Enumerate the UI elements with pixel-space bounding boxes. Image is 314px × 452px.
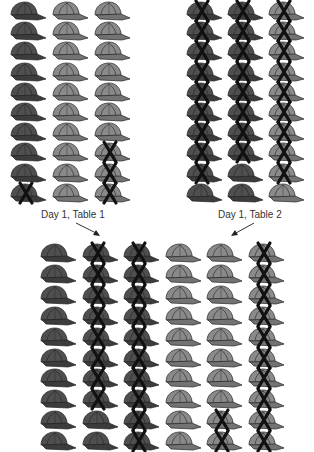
baseball-cap-icon-crossed <box>184 141 224 163</box>
baseball-cap-icon <box>163 347 203 369</box>
baseball-cap-icon-crossed <box>266 20 306 42</box>
baseball-cap-icon <box>204 347 244 369</box>
baseball-cap-icon-crossed <box>8 182 48 204</box>
baseball-cap-icon-crossed <box>266 81 306 103</box>
baseball-cap-icon <box>163 430 203 452</box>
baseball-cap-icon <box>163 367 203 389</box>
baseball-cap-icon-crossed <box>184 40 224 62</box>
baseball-cap-icon-crossed <box>266 121 306 143</box>
baseball-cap-icon <box>92 101 132 123</box>
baseball-cap-icon-crossed <box>121 284 161 306</box>
baseball-cap-icon-crossed <box>266 162 306 184</box>
baseball-cap-icon <box>92 20 132 42</box>
baseball-cap-icon <box>225 182 265 204</box>
baseball-cap-icon-crossed <box>121 305 161 327</box>
arrow-icon <box>228 220 258 240</box>
baseball-cap-icon-crossed <box>121 367 161 389</box>
baseball-cap-icon <box>204 242 244 264</box>
table1-hat-grid <box>8 0 143 205</box>
baseball-cap-icon <box>163 305 203 327</box>
baseball-cap-icon <box>204 284 244 306</box>
baseball-cap-icon-crossed <box>92 141 132 163</box>
baseball-cap-icon <box>50 0 90 22</box>
baseball-cap-icon <box>38 263 78 285</box>
baseball-cap-icon-crossed <box>184 0 224 22</box>
baseball-cap-icon <box>50 101 90 123</box>
baseball-cap-icon <box>163 284 203 306</box>
baseball-cap-icon-crossed <box>225 141 265 163</box>
baseball-cap-icon-crossed <box>204 409 244 431</box>
baseball-cap-icon <box>38 242 78 264</box>
baseball-cap-icon <box>38 326 78 348</box>
baseball-cap-icon-crossed <box>266 141 306 163</box>
baseball-cap-icon-crossed <box>266 61 306 83</box>
baseball-cap-icon <box>8 162 48 184</box>
baseball-cap-icon <box>50 182 90 204</box>
baseball-cap-icon <box>204 388 244 410</box>
table2-label: Day 1, Table 2 <box>218 209 282 220</box>
baseball-cap-icon <box>92 81 132 103</box>
baseball-cap-icon <box>163 388 203 410</box>
baseball-cap-icon-crossed <box>246 305 286 327</box>
table2-hat-grid <box>184 0 314 205</box>
baseball-cap-icon <box>8 40 48 62</box>
baseball-cap-icon <box>8 141 48 163</box>
baseball-cap-icon-crossed <box>225 81 265 103</box>
baseball-cap-icon-crossed <box>92 182 132 204</box>
baseball-cap-icon-crossed <box>184 61 224 83</box>
baseball-cap-icon <box>266 182 306 204</box>
baseball-cap-icon-crossed <box>204 430 244 452</box>
baseball-cap-icon-crossed <box>80 242 120 264</box>
baseball-cap-icon <box>80 430 120 452</box>
arrow-icon <box>74 220 104 240</box>
baseball-cap-icon-crossed <box>80 388 120 410</box>
baseball-cap-icon <box>38 347 78 369</box>
baseball-cap-icon-crossed <box>246 326 286 348</box>
baseball-cap-icon-crossed <box>266 101 306 123</box>
baseball-cap-icon-crossed <box>184 162 224 184</box>
baseball-cap-icon <box>50 141 90 163</box>
baseball-cap-icon-crossed <box>184 101 224 123</box>
baseball-cap-icon <box>92 0 132 22</box>
baseball-cap-icon <box>50 162 90 184</box>
baseball-cap-icon <box>8 121 48 143</box>
baseball-cap-icon <box>38 430 78 452</box>
baseball-cap-icon-crossed <box>225 20 265 42</box>
baseball-cap-icon-crossed <box>246 430 286 452</box>
baseball-cap-icon-crossed <box>266 0 306 22</box>
baseball-cap-icon-crossed <box>80 347 120 369</box>
baseball-cap-icon-crossed <box>225 61 265 83</box>
baseball-cap-icon <box>8 81 48 103</box>
baseball-cap-icon <box>204 326 244 348</box>
baseball-cap-icon <box>8 20 48 42</box>
baseball-cap-icon-crossed <box>80 284 120 306</box>
baseball-cap-icon <box>38 305 78 327</box>
baseball-cap-icon-crossed <box>121 263 161 285</box>
baseball-cap-icon <box>184 182 224 204</box>
baseball-cap-icon-crossed <box>246 367 286 389</box>
table1-label: Day 1, Table 1 <box>41 209 105 220</box>
baseball-cap-icon-crossed <box>225 0 265 22</box>
baseball-cap-icon <box>204 367 244 389</box>
baseball-cap-icon <box>80 409 120 431</box>
baseball-cap-icon-crossed <box>121 242 161 264</box>
baseball-cap-icon-crossed <box>225 101 265 123</box>
baseball-cap-icon <box>8 0 48 22</box>
baseball-cap-icon-crossed <box>80 326 120 348</box>
baseball-cap-icon <box>8 61 48 83</box>
baseball-cap-icon <box>50 61 90 83</box>
baseball-cap-icon <box>163 263 203 285</box>
baseball-cap-icon-crossed <box>121 347 161 369</box>
baseball-cap-icon <box>50 20 90 42</box>
baseball-cap-icon <box>204 263 244 285</box>
baseball-cap-icon <box>204 305 244 327</box>
baseball-cap-icon <box>38 367 78 389</box>
baseball-cap-icon <box>38 388 78 410</box>
baseball-cap-icon <box>50 40 90 62</box>
baseball-cap-icon <box>163 326 203 348</box>
baseball-cap-icon-crossed <box>225 121 265 143</box>
baseball-cap-icon-crossed <box>92 162 132 184</box>
baseball-cap-icon <box>92 121 132 143</box>
baseball-cap-icon-crossed <box>246 347 286 369</box>
baseball-cap-icon-crossed <box>246 242 286 264</box>
